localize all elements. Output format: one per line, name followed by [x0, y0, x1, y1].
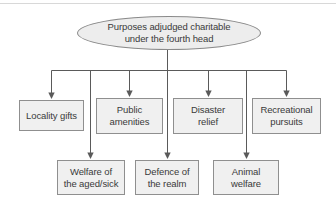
node-recreational-pursuits: Recreational pursuits — [252, 98, 321, 134]
node-label: Welfare of the aged/sick — [64, 166, 119, 190]
node-label: Locality gifts — [26, 110, 77, 122]
node-animal-welfare: Animal welfare — [213, 160, 279, 195]
root-node-purposes: Purposes adjudged charitable under the f… — [77, 16, 261, 50]
node-locality-gifts: Locality gifts — [19, 100, 84, 131]
node-label: Animal welfare — [231, 166, 261, 190]
node-label: Disaster relief — [191, 104, 225, 128]
node-label: Defence of the realm — [145, 166, 190, 190]
node-welfare-aged-sick: Welfare of the aged/sick — [57, 160, 125, 195]
root-node-label: Purposes adjudged charitable under the f… — [108, 21, 231, 45]
node-label: Recreational pursuits — [260, 104, 312, 128]
diagram-canvas: Purposes adjudged charitable under the f… — [0, 0, 336, 209]
node-defence-realm: Defence of the realm — [135, 160, 199, 195]
node-public-amenities: Public amenities — [96, 98, 163, 134]
node-disaster-relief: Disaster relief — [173, 98, 243, 134]
node-label: Public amenities — [110, 104, 150, 128]
